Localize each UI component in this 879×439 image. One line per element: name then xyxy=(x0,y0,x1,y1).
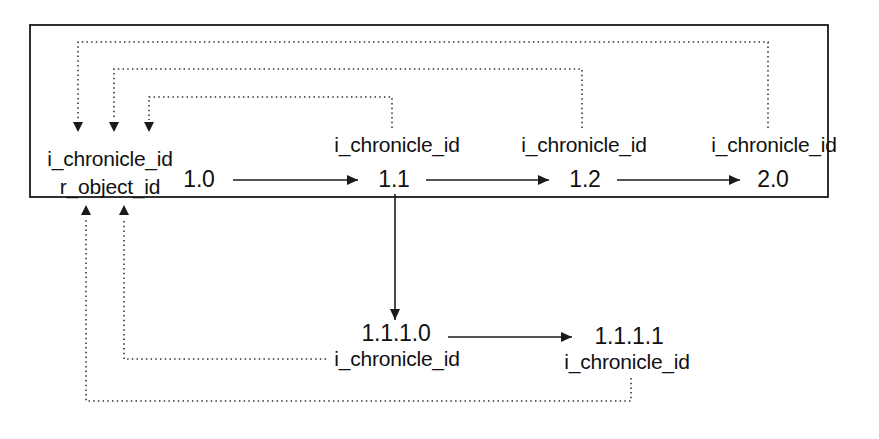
version-arrows xyxy=(233,180,740,337)
node-2-0-label: i_chronicle_id xyxy=(711,133,837,157)
node-1-1-label: i_chronicle_id xyxy=(334,133,460,157)
node-1-1-1-1-version: 1.1.1.1 xyxy=(595,324,664,348)
arrow-down-icon xyxy=(144,122,154,132)
node-1-1-1-0-label: i_chronicle_id xyxy=(334,347,460,371)
arrow-down-icon xyxy=(73,122,83,132)
arrow-up-icon xyxy=(119,205,129,215)
ref-line-1-1-1-0 xyxy=(124,218,326,359)
node-1-1-1-0-version: 1.1.1.0 xyxy=(362,321,431,345)
node-1-1-version: 1.1 xyxy=(378,167,409,191)
node-1-0-object-label: r_object_id xyxy=(60,175,161,199)
ref-line-2-0 xyxy=(78,42,768,128)
arrow-up-icon xyxy=(81,205,91,215)
ref-line-1-1 xyxy=(149,97,392,128)
diagram-lines xyxy=(0,0,879,439)
ref-line-1-2 xyxy=(114,69,582,128)
node-1-0-chronicle-label: i_chronicle_id xyxy=(47,147,173,171)
node-1-2-label: i_chronicle_id xyxy=(521,133,647,157)
arrow-down-icon xyxy=(109,122,119,132)
node-1-0-version: 1.0 xyxy=(183,167,214,191)
node-1-2-version: 1.2 xyxy=(569,167,600,191)
node-1-1-1-1-label: i_chronicle_id xyxy=(564,350,690,374)
ref-line-1-1-1-1 xyxy=(86,218,631,401)
node-2-0-version: 2.0 xyxy=(757,167,788,191)
